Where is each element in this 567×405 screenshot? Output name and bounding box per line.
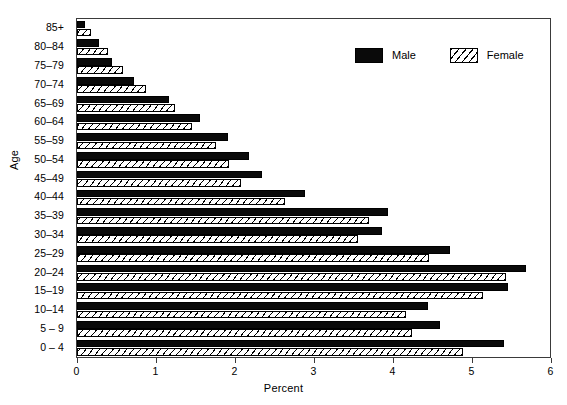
x-axis-title: Percent (0, 382, 567, 394)
bar-group (77, 282, 551, 301)
bar-group (77, 188, 551, 207)
chart-legend: Male Female (355, 45, 524, 65)
legend-swatch-female-icon (450, 48, 478, 63)
bar-group (77, 132, 551, 151)
x-axis-tick-label: 6 (548, 365, 554, 377)
bar-male (77, 283, 508, 291)
bar-female (77, 217, 369, 225)
bar-group (77, 19, 551, 38)
x-axis-ticks: 0123456 (76, 358, 551, 384)
bar-group (77, 150, 551, 169)
legend-item-male: Male (355, 48, 416, 63)
x-axis-tick-mark (551, 358, 552, 363)
bar-female (77, 254, 429, 262)
legend-label-female: Female (487, 49, 524, 61)
bar-male (77, 58, 112, 66)
x-axis-tick-label: 4 (390, 365, 396, 377)
x-axis-tick-mark (156, 358, 157, 363)
bar-male (77, 39, 99, 47)
bar-group (77, 75, 551, 94)
bar-male (77, 152, 249, 160)
bar-female (77, 329, 412, 337)
bar-group (77, 207, 551, 226)
bar-male (77, 321, 440, 329)
x-axis-tick-mark (77, 358, 78, 363)
bar-female (77, 292, 483, 300)
y-axis-tick-label: 55–59 (34, 134, 64, 146)
y-axis-tick-label: 75–79 (34, 59, 64, 71)
bar-female (77, 85, 146, 93)
x-axis-tick-label: 5 (469, 365, 475, 377)
x-axis-tick-label: 0 (74, 365, 80, 377)
x-axis-tick-mark (393, 358, 394, 363)
bars-layer (77, 19, 551, 357)
bar-male (77, 208, 388, 216)
bar-female (77, 348, 463, 356)
bar-group (77, 113, 551, 132)
y-axis-tick-label: 85+ (46, 21, 64, 33)
bar-female (77, 48, 108, 56)
bar-male (77, 190, 305, 198)
bar-group (77, 226, 551, 245)
bar-female (77, 29, 91, 37)
bar-group (77, 338, 551, 357)
bar-female (77, 273, 506, 281)
legend-swatch-male-icon (355, 48, 383, 63)
bar-male (77, 340, 504, 348)
bar-female (77, 160, 229, 168)
bar-female (77, 235, 358, 243)
bar-female (77, 198, 285, 206)
population-pyramid-chart: Age 85+80–8475–7970–7465–6960–6455–5950–… (0, 0, 567, 405)
bar-group (77, 301, 551, 320)
y-axis-tick-label: 80–84 (34, 40, 64, 52)
x-axis-tick-mark (314, 358, 315, 363)
x-axis-tick-label: 1 (153, 365, 159, 377)
bar-female (77, 311, 406, 319)
y-axis-tick-label: 40–44 (34, 190, 64, 202)
y-axis-tick-label: 15–19 (34, 284, 64, 296)
legend-label-male: Male (392, 49, 416, 61)
y-axis-tick-label: 35–39 (34, 209, 64, 221)
x-axis-tick-label: 2 (232, 365, 238, 377)
y-axis-tick-labels: 85+80–8475–7970–7465–6960–6455–5950–5445… (0, 19, 70, 357)
bar-female (77, 104, 175, 112)
bar-group (77, 169, 551, 188)
bar-male (77, 246, 450, 254)
bar-group (77, 263, 551, 282)
bar-group (77, 244, 551, 263)
y-axis-tick-label: 20–24 (34, 266, 64, 278)
bar-male (77, 96, 169, 104)
bar-male (77, 114, 200, 122)
y-axis-tick-label: 5 – 9 (40, 322, 64, 334)
x-axis-tick-mark (472, 358, 473, 363)
legend-item-female: Female (450, 48, 524, 63)
bar-group (77, 319, 551, 338)
y-axis-tick-label: 50–54 (34, 153, 64, 165)
x-axis-tick-label: 3 (311, 365, 317, 377)
bar-female (77, 142, 216, 150)
y-axis-tick-label: 10–14 (34, 303, 64, 315)
bar-female (77, 179, 241, 187)
bar-female (77, 123, 192, 131)
y-axis-tick-label: 60–64 (34, 115, 64, 127)
bar-male (77, 265, 526, 273)
y-axis-tick-label: 0 – 4 (40, 341, 64, 353)
y-axis-tick-label: 45–49 (34, 172, 64, 184)
y-axis-tick-label: 30–34 (34, 228, 64, 240)
y-axis-tick-label: 70–74 (34, 78, 64, 90)
bar-female (77, 66, 123, 74)
bar-male (77, 77, 134, 85)
y-axis-tick-label: 65–69 (34, 97, 64, 109)
bar-male (77, 171, 262, 179)
bar-male (77, 227, 382, 235)
bar-male (77, 21, 85, 29)
bar-male (77, 302, 428, 310)
bar-male (77, 133, 228, 141)
y-axis-tick-label: 25–29 (34, 247, 64, 259)
bar-group (77, 94, 551, 113)
x-axis-tick-mark (235, 358, 236, 363)
